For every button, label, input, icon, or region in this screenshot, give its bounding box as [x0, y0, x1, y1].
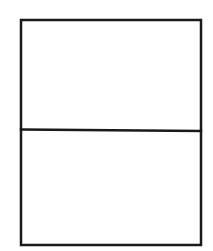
horizontal-divider-line — [21, 130, 201, 132]
top-panel — [21, 20, 201, 131]
divided-rectangle-diagram — [0, 0, 213, 251]
bottom-panel — [21, 130, 201, 246]
